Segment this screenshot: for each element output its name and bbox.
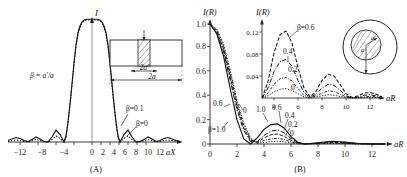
panel-a-xtick-6: 6 [123,148,127,157]
panel-b-ytick-5: 1.0 [196,20,206,29]
panel-b-xtick-1: 2 [235,150,239,159]
inset-xtick-1: 6 [296,103,300,111]
panel-b-ytick-4: 0.8 [196,42,206,51]
panel-b-label-beta-1-0: β=1.0 [208,125,226,134]
inset-xtick-3: 10 [343,103,351,111]
panel-b-xlabel: aR [394,139,404,149]
panel-b-xtick-6: 12 [368,150,376,159]
panel-a-xtick-1: −8 [38,148,47,157]
aperture-outer-label: a [361,47,364,53]
panel-a-beta-definition: β = a′/a [29,71,54,80]
panel-a-label-beta-0-1: β=0.1 [126,104,144,113]
panel-b-label-0-6: 0.6 [213,99,223,108]
panel-b-label-0-2: 0.2 [288,120,298,129]
panel-b-label-0: 0 [243,106,247,115]
figure-svg: I −12 −8 −4 0 2 4 6 8 10 12 aX β = a′/a [0,0,407,177]
panel-a-xtick-9: 12 [156,148,164,157]
panel-a-xlabel: aX [166,147,176,157]
figure-root: I −12 −8 −4 0 2 4 6 8 10 12 aX β = a′/a [0,0,407,177]
panel-b-xtick-0: 0 [208,150,212,159]
inset-xtick-0: 4 [272,103,276,111]
panel-a-xtick-5: 4 [112,148,116,157]
panel-b-label-0b: 0 [290,129,294,138]
panel-b-inset-aperture-diagram: a′ a [343,20,397,74]
panel-b-ylabel: I(R) [202,7,217,17]
inset-ytick-1: 0.08 [246,51,259,59]
slit-inner-label: 2a′ [139,63,149,72]
panel-a-xtick-3: 0 [90,148,94,157]
panel-b-caption: (B) [294,164,306,174]
panel-a-xtick-8: 10 [144,148,152,157]
panel-a-xtick-7: 8 [134,148,138,157]
panel-b-xtick-3: 6 [289,150,293,159]
panel-a-xtick-0: −12 [14,148,27,157]
panel-b-xtick-2: 4 [262,150,266,159]
inset-label-0: 0 [291,83,295,92]
panel-a-label-beta-0: β=0 [136,119,148,128]
inset-ytick-2: 0.12 [246,29,259,37]
inset-xlabel: aR [386,93,396,103]
panel-b-label-1-0: 1.0 [256,105,266,114]
panel-b-xtick-5: 10 [341,150,349,159]
panel-b-xtick-4: 8 [316,150,320,159]
panel-a-caption: (A) [90,164,102,174]
panel-a-xtick-2: −4 [60,148,69,157]
panel-b-ytick-3: 0.6 [196,67,206,76]
inset-label-beta-0-6: β=0.6 [297,23,315,32]
panel-b-ytick-2: 0.4 [196,91,206,100]
slit-outer-label: 2a [148,72,156,81]
inset-ylabel: I(R) [255,7,270,17]
inset-xtick-4: 12 [367,103,375,111]
panel-b-ytick-1: 0.2 [196,116,206,125]
inset-label-0-2: 0.2 [288,65,298,74]
aperture-inner-label: a′ [371,35,376,41]
panel-b-label-0-4: 0.4 [285,111,295,120]
panel-b-ytick-0: 0 [202,140,206,149]
inset-label-0-4: 0.4 [283,47,293,56]
panel-a-xtick-4: 2 [101,148,105,157]
inset-ytick-0: 0.04 [246,73,259,81]
inset-xtick-2: 8 [320,103,324,111]
